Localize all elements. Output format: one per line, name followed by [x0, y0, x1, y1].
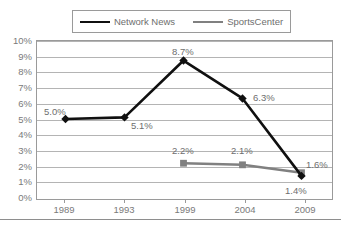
data-label-nn-2004: 6.3%: [253, 93, 275, 103]
data-label-nn-1999: 8.7%: [172, 47, 194, 57]
bottom-divider: [0, 219, 341, 220]
line-chart: Network News SportsCenter 10% 9% 8% 7% 6…: [0, 0, 341, 227]
data-label-nn-2009: 1.4%: [285, 186, 307, 196]
data-label-nn-1989: 5.0%: [44, 107, 66, 117]
data-label-sc-2009: 1.6%: [306, 160, 328, 170]
data-label-sc-1999: 2.2%: [172, 146, 194, 156]
data-label-nn-1993: 5.1%: [131, 121, 153, 131]
series-sportscenter: [180, 160, 305, 176]
data-label-sc-2004: 2.1%: [231, 146, 253, 156]
